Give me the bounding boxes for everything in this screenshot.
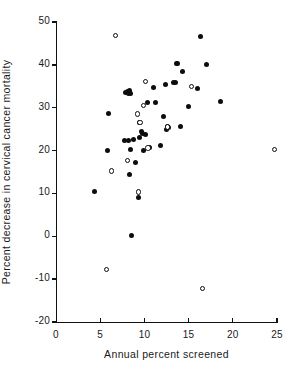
data-point-filled — [204, 62, 209, 67]
data-point-filled — [195, 86, 200, 91]
data-point-filled — [133, 160, 138, 165]
data-point-open — [125, 158, 130, 163]
data-point-filled — [92, 189, 97, 194]
data-point-filled — [218, 99, 223, 104]
data-point-open — [109, 168, 114, 173]
data-point-filled — [186, 104, 191, 109]
data-point-open — [137, 120, 142, 125]
data-point-open — [104, 267, 109, 272]
scatter-plot-figure: Percent decrease in cervical cancer mort… — [0, 0, 295, 370]
data-point-open — [272, 147, 277, 152]
data-point-filled — [128, 147, 133, 152]
data-point-filled — [158, 143, 163, 148]
data-point-filled — [198, 34, 203, 39]
data-point-filled — [127, 172, 132, 177]
data-point-filled — [136, 195, 141, 200]
data-point-filled — [145, 100, 150, 105]
data-point-filled — [106, 111, 111, 116]
data-point-filled — [137, 135, 142, 140]
data-point-filled — [151, 85, 156, 90]
plot-data-area — [0, 0, 295, 370]
data-point-open — [113, 33, 118, 38]
data-point-open — [143, 79, 148, 84]
data-point-filled — [126, 138, 131, 143]
data-point-filled — [173, 80, 178, 85]
data-point-filled — [129, 233, 134, 238]
data-point-open — [189, 84, 194, 89]
data-point-filled — [180, 69, 185, 74]
data-point-filled — [105, 148, 110, 153]
data-point-filled — [161, 114, 166, 119]
data-point-filled — [153, 100, 158, 105]
data-point-open — [165, 124, 170, 129]
data-point-filled — [143, 132, 148, 137]
data-point-filled — [163, 82, 168, 87]
data-point-open — [136, 189, 141, 194]
data-point-open — [141, 103, 146, 108]
data-point-filled — [178, 124, 183, 129]
data-point-filled — [175, 61, 180, 66]
data-point-open — [200, 286, 205, 291]
data-point-filled — [131, 137, 136, 142]
data-point-open — [145, 145, 150, 150]
data-point-open — [135, 111, 140, 116]
data-point-filled — [128, 91, 133, 96]
